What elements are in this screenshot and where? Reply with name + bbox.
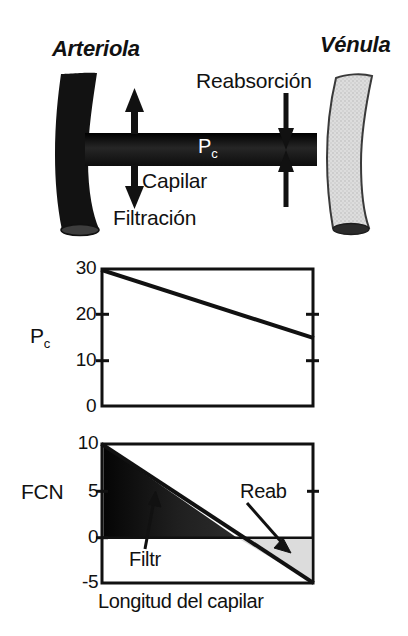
reabsorption-region-label: Reab bbox=[240, 481, 287, 501]
fcn-axis-label: FCN bbox=[21, 481, 63, 502]
fcn-xaxis-title: Longitud del capilar bbox=[98, 591, 263, 611]
fcn-ytick-5: 5 bbox=[62, 481, 98, 500]
figure-root: Arteriola Vénula Reabsorción Filtración … bbox=[0, 0, 408, 636]
fcn-ytick-neg5: -5 bbox=[56, 572, 98, 591]
filtration-region-label: Filtr bbox=[129, 549, 161, 569]
fcn-chart: 10 5 0 -5 FCN Filtr Reab Longitud del ca… bbox=[0, 0, 408, 636]
fcn-ytick-10: 10 bbox=[62, 433, 98, 452]
fcn-ytick-0: 0 bbox=[62, 527, 98, 546]
